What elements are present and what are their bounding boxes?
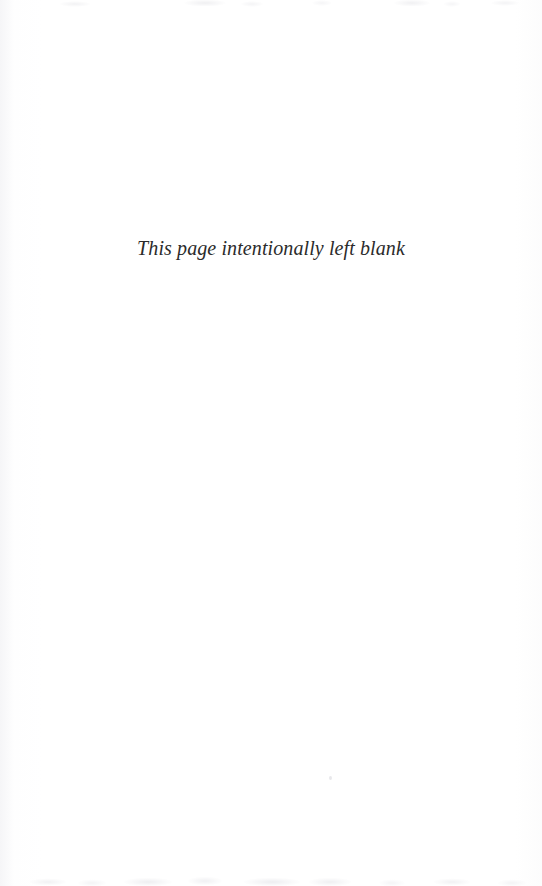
- scan-artifact-bottom-edge: [0, 871, 542, 886]
- scanned-page: This page intentionally left blank: [0, 0, 542, 886]
- scan-artifact-top-edge: [0, 0, 542, 13]
- intentionally-blank-notice: This page intentionally left blank: [0, 236, 542, 260]
- dust-speck-artifact: [329, 776, 332, 780]
- paper-tone-vignette: [0, 0, 542, 886]
